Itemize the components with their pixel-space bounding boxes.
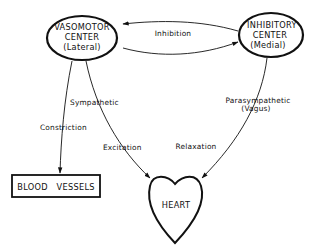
relaxation-label: Relaxation bbox=[176, 142, 217, 151]
vasomotor-center-node: VASOMOTOR CENTER (Lateral) bbox=[47, 16, 117, 60]
autonomic-heart-diagram: VASOMOTOR CENTER (Lateral) INHIBITORY CE… bbox=[0, 0, 309, 252]
inhibitory-center-node: INHIBITORY CENTER (Medial) bbox=[239, 13, 303, 57]
inhibition-edge: Inhibition bbox=[123, 22, 238, 55]
blood-vessels-label: BLOOD VESSELS bbox=[17, 182, 95, 192]
constriction-label: Constriction bbox=[40, 123, 87, 132]
excitation-edge: Sympathetic Excitation bbox=[70, 61, 150, 178]
heart-label: HEART bbox=[162, 200, 191, 210]
inhibitory-location: (Medial) bbox=[250, 40, 286, 50]
inhibition-label: Inhibition bbox=[155, 29, 192, 38]
vasomotor-title: VASOMOTOR bbox=[54, 22, 110, 32]
constriction-edge: Constriction bbox=[40, 61, 87, 173]
blood-vessels-node: BLOOD VESSELS bbox=[12, 175, 100, 197]
relaxation-edge: Parasympathetic (Vagus) Relaxation bbox=[176, 58, 291, 178]
inhibitory-subtitle: CENTER bbox=[253, 30, 288, 40]
excitation-label: Excitation bbox=[103, 143, 142, 152]
vasomotor-location: (Lateral) bbox=[63, 42, 101, 52]
heart-node: HEART bbox=[149, 177, 202, 243]
sympathetic-label: Sympathetic bbox=[70, 98, 119, 107]
inhibitory-title: INHIBITORY bbox=[247, 20, 297, 30]
vasomotor-subtitle: CENTER bbox=[65, 32, 100, 42]
vagus-label: (Vagus) bbox=[241, 104, 270, 113]
